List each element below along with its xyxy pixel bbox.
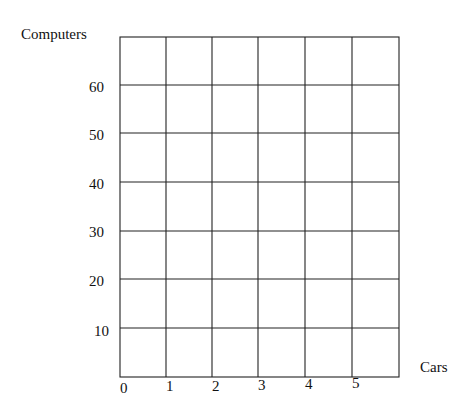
- y-tick-10: 10: [94, 324, 109, 339]
- x-tick-0: 0: [120, 381, 128, 396]
- y-tick-20: 20: [89, 274, 104, 289]
- chart-grid: [0, 0, 464, 413]
- y-tick-30: 30: [89, 225, 104, 240]
- x-tick-2: 2: [212, 379, 220, 394]
- y-tick-60: 60: [89, 80, 104, 95]
- x-axis-label: Cars: [420, 360, 448, 375]
- y-axis-label: Computers: [21, 27, 87, 42]
- y-tick-50: 50: [89, 128, 104, 143]
- x-tick-4: 4: [305, 377, 313, 392]
- y-tick-40: 40: [89, 177, 104, 192]
- x-tick-5: 5: [352, 376, 360, 391]
- x-tick-1: 1: [166, 379, 174, 394]
- x-tick-3: 3: [258, 378, 266, 393]
